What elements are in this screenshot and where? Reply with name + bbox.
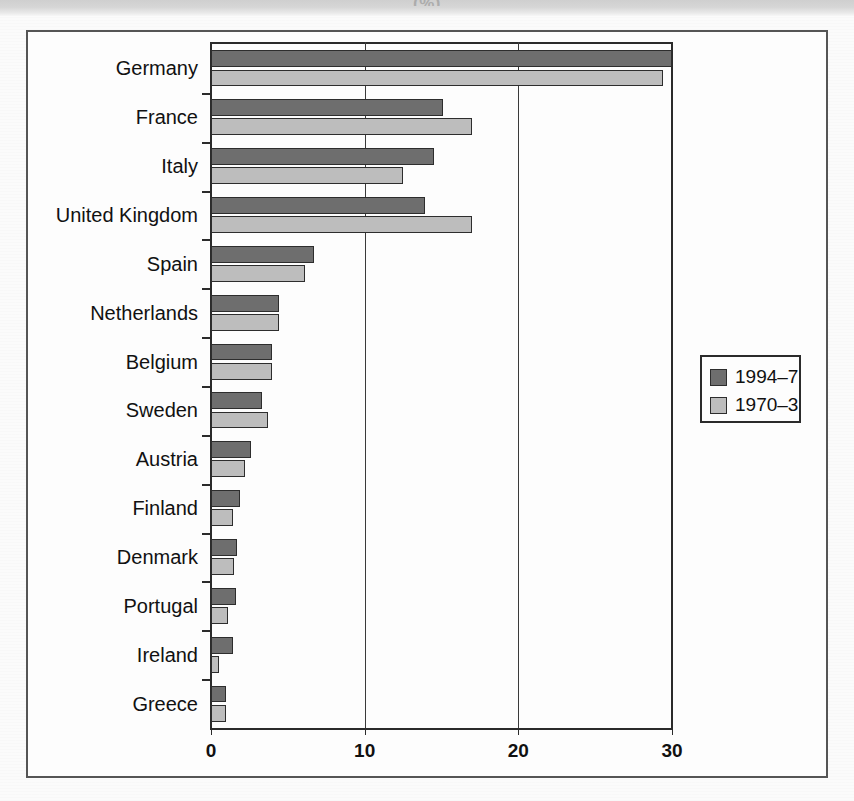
- y-tick: [202, 484, 211, 486]
- bar-dark: [211, 50, 672, 67]
- category-label: Portugal: [124, 594, 199, 617]
- category-label: Denmark: [117, 546, 198, 569]
- category-label: Finland: [132, 497, 198, 520]
- bar-dark: [211, 539, 237, 556]
- bar-light: [211, 656, 219, 673]
- gridline: [365, 42, 366, 728]
- bar-dark: [211, 99, 443, 116]
- y-tick: [202, 435, 211, 437]
- category-label: France: [136, 106, 198, 129]
- plot-top-border: [210, 42, 673, 44]
- category-label: Ireland: [137, 643, 198, 666]
- bar-light: [211, 558, 234, 575]
- bar-light: [211, 705, 226, 722]
- x-tick-label: 10: [354, 740, 375, 762]
- x-tick-label: 20: [508, 740, 529, 762]
- legend-label: 1994–7: [735, 366, 798, 388]
- bar-dark: [211, 588, 236, 605]
- bar-dark: [211, 246, 314, 263]
- bar-dark: [211, 392, 262, 409]
- y-tick: [202, 93, 211, 95]
- bar-light: [211, 70, 663, 87]
- x-axis-line: [210, 728, 673, 730]
- category-label: Spain: [147, 252, 198, 275]
- y-tick: [202, 386, 211, 388]
- x-tick: [518, 728, 519, 735]
- bar-dark: [211, 344, 272, 361]
- legend-swatch-icon: [710, 369, 727, 386]
- y-tick: [202, 239, 211, 241]
- bar-light: [211, 216, 472, 233]
- bar-light: [211, 607, 228, 624]
- bar-light: [211, 363, 272, 380]
- bar-dark: [211, 197, 425, 214]
- legend-item: 1970–3: [710, 391, 799, 419]
- category-label: Italy: [161, 155, 198, 178]
- legend-label: 1970–3: [735, 394, 798, 416]
- bar-light: [211, 412, 268, 429]
- bar-light: [211, 118, 472, 135]
- bar-light: [211, 509, 233, 526]
- bar-dark: [211, 686, 226, 703]
- plot-right-border: [671, 42, 673, 730]
- y-tick: [202, 630, 211, 632]
- legend: 1994–7 1970–3: [700, 355, 801, 423]
- y-tick: [202, 142, 211, 144]
- bar-light: [211, 314, 279, 331]
- y-tick: [202, 337, 211, 339]
- bar-light: [211, 460, 245, 477]
- gridline: [518, 42, 519, 728]
- category-label: Austria: [136, 448, 198, 471]
- bar-light: [211, 265, 305, 282]
- bar-dark: [211, 295, 279, 312]
- category-label: Belgium: [126, 350, 198, 373]
- y-tick: [202, 533, 211, 535]
- bar-dark: [211, 637, 233, 654]
- x-tick-label: 0: [206, 740, 217, 762]
- y-tick: [202, 288, 211, 290]
- x-tick: [365, 728, 366, 735]
- y-tick: [202, 679, 211, 681]
- legend-swatch-icon: [710, 397, 727, 414]
- y-tick: [202, 191, 211, 193]
- category-label: Netherlands: [90, 301, 198, 324]
- bar-dark: [211, 490, 240, 507]
- bar-light: [211, 167, 403, 184]
- category-label: Greece: [132, 692, 198, 715]
- x-tick: [672, 728, 673, 735]
- category-label: Sweden: [126, 399, 198, 422]
- category-label: Germany: [116, 57, 198, 80]
- x-tick-label: 30: [661, 740, 682, 762]
- y-tick: [202, 581, 211, 583]
- x-tick: [211, 728, 212, 735]
- bar-dark: [211, 441, 251, 458]
- bar-dark: [211, 148, 434, 165]
- category-label: United Kingdom: [56, 204, 198, 227]
- legend-item: 1994–7: [710, 363, 799, 391]
